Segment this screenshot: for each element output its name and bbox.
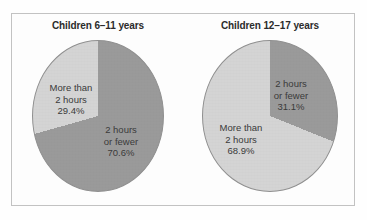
pie-wrap-left: More than 2 hours 29.4% 2 hours or fewer…: [30, 40, 166, 198]
panel-title-right: Children 12–17 years: [184, 20, 356, 31]
slice-label-more-than-2-hours-left: More than 2 hours 29.4%: [38, 82, 104, 117]
slice-label-line2: 2 hours: [38, 94, 104, 106]
figure-container: Children 6–11 years More than 2 hours 29…: [0, 0, 367, 220]
slice-label-value: 31.1%: [258, 101, 324, 113]
slice-label-line1: 2 hours: [258, 78, 324, 90]
pie-wrap-right: 2 hours or fewer 31.1% More than 2 hours…: [200, 40, 340, 198]
slice-label-line1: More than: [38, 82, 104, 94]
panel-title-left: Children 6–11 years: [12, 20, 184, 31]
pie-panel-children-6-11: Children 6–11 years More than 2 hours 29…: [12, 14, 184, 205]
slice-label-line2: or fewer: [88, 136, 154, 148]
slice-label-value: 70.6%: [88, 147, 154, 159]
slice-label-more-than-2-hours-right: More than 2 hours 68.9%: [206, 122, 276, 157]
slice-label-2-hours-or-fewer-right: 2 hours or fewer 31.1%: [258, 78, 324, 113]
slice-label-line1: 2 hours: [88, 124, 154, 136]
slice-label-2-hours-or-fewer-left: 2 hours or fewer 70.6%: [88, 124, 154, 159]
slice-label-line2: 2 hours: [206, 134, 276, 146]
pie-panel-children-12-17: Children 12–17 years 2 hours or fewer 31…: [184, 14, 356, 205]
slice-label-value: 68.9%: [206, 145, 276, 157]
slice-label-line1: More than: [206, 122, 276, 134]
pie-chart-children-12-17: [202, 40, 338, 192]
scan-grain-overlay-right: [203, 41, 337, 191]
slice-label-line2: or fewer: [258, 90, 324, 102]
figure-frame: Children 6–11 years More than 2 hours 29…: [11, 13, 355, 206]
slice-label-value: 29.4%: [38, 105, 104, 117]
